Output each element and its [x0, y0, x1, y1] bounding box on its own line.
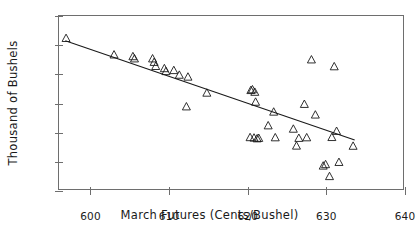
data-point-marker — [264, 121, 272, 128]
data-point-marker — [295, 134, 303, 141]
y-tick-mark-inner — [59, 16, 63, 17]
x-tick-mark — [248, 191, 249, 195]
data-point-marker — [311, 111, 319, 118]
y-tick-mark-inner — [59, 74, 63, 75]
x-tick-mark-inner — [326, 187, 327, 191]
plot-area — [59, 16, 403, 189]
x-axis-title: March Futures (Cents/Bushel) — [0, 208, 419, 222]
chart-figure: Thousand of Bushels -600-800-1000-1200-1… — [0, 0, 419, 228]
data-point-marker — [349, 142, 357, 149]
scatter-plot-svg — [59, 16, 403, 189]
data-point-marker — [326, 172, 334, 179]
x-tick-mark — [326, 191, 327, 195]
x-tick-mark-inner — [405, 187, 406, 191]
x-tick-mark-inner — [169, 187, 170, 191]
data-point-marker — [303, 133, 311, 140]
plot-frame: -600-800-1000-1200-1400-1600-1800 600610… — [58, 15, 404, 190]
x-tick-mark — [405, 191, 406, 195]
y-axis-title-container: Thousand of Bushels — [2, 15, 24, 190]
data-point-marker — [170, 66, 178, 73]
data-point-marker — [330, 62, 338, 69]
data-point-marker — [292, 142, 300, 149]
data-point-marker — [271, 133, 279, 140]
data-point-marker — [184, 73, 192, 80]
x-tick-mark — [169, 191, 170, 195]
x-tick-mark — [90, 191, 91, 195]
data-point-marker — [307, 56, 315, 63]
y-tick-mark-inner — [59, 45, 63, 46]
x-tick-mark-inner — [90, 187, 91, 191]
data-point-marker — [182, 103, 190, 110]
data-point-marker — [162, 67, 170, 74]
y-tick-mark-inner — [59, 104, 63, 105]
data-point-marker — [252, 98, 260, 105]
x-tick-mark-inner — [248, 187, 249, 191]
data-point-marker — [300, 100, 308, 107]
y-tick-mark-inner — [59, 191, 63, 192]
data-point-marker — [335, 158, 343, 165]
data-point-group — [62, 34, 357, 180]
y-tick-mark-inner — [59, 133, 63, 134]
y-tick-mark-inner — [59, 162, 63, 163]
data-point-marker — [62, 34, 70, 41]
data-point-marker — [289, 125, 297, 132]
data-point-marker — [246, 133, 254, 140]
y-axis-title: Thousand of Bushels — [6, 18, 20, 188]
